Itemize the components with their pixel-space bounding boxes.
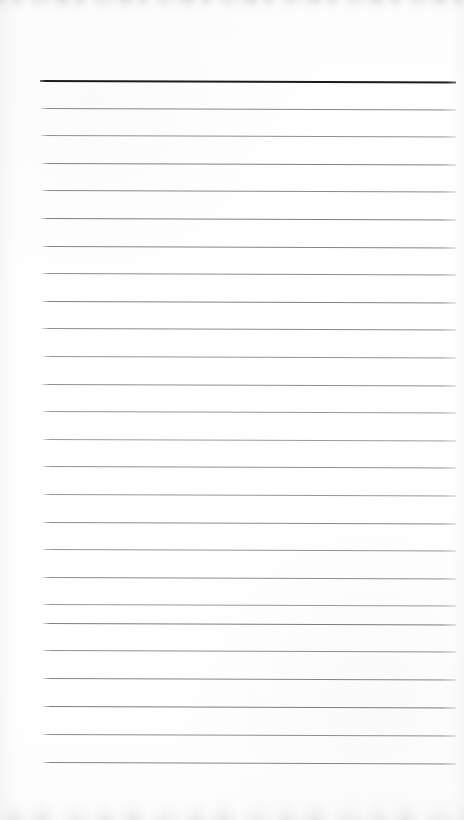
scanned-page	[0, 0, 464, 820]
writing-area[interactable]	[0, 0, 464, 820]
